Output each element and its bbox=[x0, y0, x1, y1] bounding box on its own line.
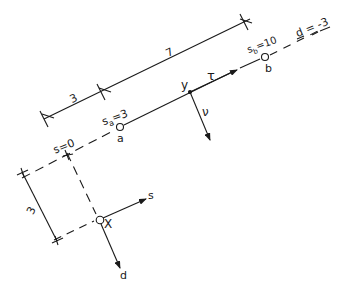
dim-tick-mid bbox=[97, 84, 105, 100]
label-point-y: y bbox=[181, 79, 188, 91]
label-tau: τ bbox=[207, 69, 215, 82]
label-nu: ν bbox=[202, 106, 209, 118]
label-point-x: X bbox=[104, 218, 112, 230]
x-parallel-dashed bbox=[54, 221, 94, 240]
label-axis-s: s bbox=[148, 190, 154, 201]
dim-tick-right bbox=[240, 14, 248, 30]
label-axis-d: d bbox=[120, 270, 127, 281]
s-axis-arrow bbox=[103, 199, 146, 218]
label-point-b: b bbox=[265, 63, 272, 74]
s-zero-perpendicular bbox=[67, 153, 96, 214]
dim-tick-left bbox=[40, 111, 48, 127]
point-b-circle bbox=[262, 54, 269, 61]
label-point-a: a bbox=[117, 133, 124, 144]
point-x-circle bbox=[96, 216, 104, 224]
diagram-canvas bbox=[0, 0, 357, 306]
